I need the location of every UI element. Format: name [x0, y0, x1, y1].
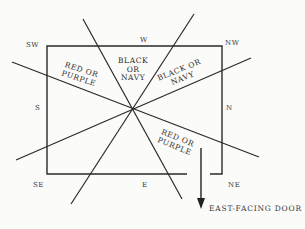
door-label: EAST-FACING DOOR [209, 205, 302, 213]
bagua-lines [0, 0, 305, 229]
direction-n: N [226, 105, 233, 112]
zone-text-line: NAVY [118, 74, 148, 83]
direction-w: W [140, 37, 148, 44]
direction-se: SE [33, 182, 44, 189]
direction-s: S [35, 105, 40, 112]
door-arrow-head [197, 198, 205, 209]
zone-top-center: BLACK OR NAVY [118, 57, 148, 83]
direction-nw: NW [225, 40, 239, 47]
direction-ne: NE [228, 182, 240, 189]
direction-sw: SW [26, 42, 39, 49]
direction-e: E [142, 182, 148, 189]
